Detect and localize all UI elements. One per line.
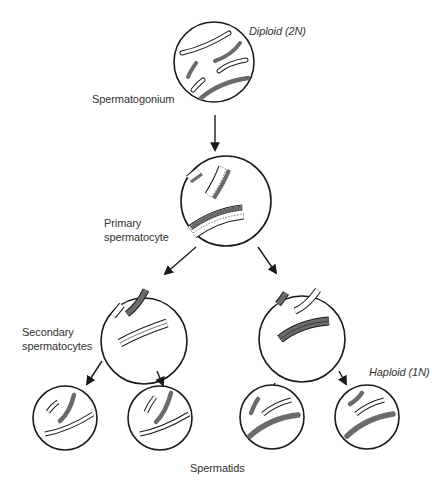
- diploid-label: Diploid (2N): [249, 24, 306, 38]
- haploid-label: Haploid (1N): [369, 365, 430, 379]
- primary-label-line2: spermatocyte: [104, 230, 169, 244]
- secondary-spermatocyte-right: [259, 290, 345, 382]
- spermatids-label: Spermatids: [190, 461, 245, 475]
- arrow-to-secondary-left: [165, 247, 196, 274]
- spermatogonium-cell: [174, 22, 254, 102]
- arrow-to-secondary-right: [258, 247, 276, 273]
- secondary-label-line2: spermatocytes: [22, 339, 92, 353]
- spermatogenesis-diagram: [0, 0, 442, 483]
- spermatid-2: [128, 386, 192, 450]
- spermatid-4: [335, 385, 399, 449]
- primary-spermatocyte-cell: [181, 156, 271, 246]
- spermatid-3: [240, 385, 304, 449]
- arrow-to-spermatid-1: [87, 361, 102, 384]
- spermatid-1: [33, 386, 97, 450]
- arrow-to-spermatid-4: [339, 371, 346, 384]
- spermatogonium-label: Spermatogonium: [92, 92, 174, 106]
- secondary-spermatocyte-left: [101, 290, 187, 384]
- secondary-label-line1: Secondary: [22, 325, 74, 339]
- primary-label-line1: Primary: [104, 216, 141, 230]
